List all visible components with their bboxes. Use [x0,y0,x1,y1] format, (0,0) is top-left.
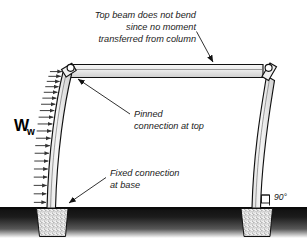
left-pin-connection [67,64,74,71]
right-angle-marker [262,195,270,206]
top-beam-note-line-3: transferred from column [98,34,196,44]
fixed-connection-note: Fixed connection at base [110,168,179,190]
leader-fixed [69,178,106,204]
left-column [47,63,76,208]
wind-load-label: W w [14,117,35,137]
right-angle-label: 90° [274,192,288,202]
pinned-note-line-1: Pinned [134,109,163,119]
fixed-note-line-1: Fixed connection [110,168,179,178]
leader-pinned [78,79,130,114]
top-beam-note-line-2: since no moment [126,22,196,32]
leader-top-beam [197,32,214,63]
pinned-note-line-2: connection at top [134,121,204,131]
right-footing [241,209,273,237]
top-beam-note-line-1: Top beam does not bend [95,10,197,20]
right-pin-connection [265,64,272,71]
pinned-connection-note: Pinned connection at top [134,109,204,131]
wind-load-subscript: w [26,126,35,137]
structural-frame-diagram: Top beam does not bend since no moment t… [0,0,307,244]
fixed-note-line-2: at base [110,180,140,190]
top-beam-note: Top beam does not bend since no moment t… [95,10,197,44]
top-beam [70,65,263,78]
right-column [252,63,277,208]
left-footing [37,209,69,237]
diagram-canvas: Top beam does not bend since no moment t… [0,0,307,244]
